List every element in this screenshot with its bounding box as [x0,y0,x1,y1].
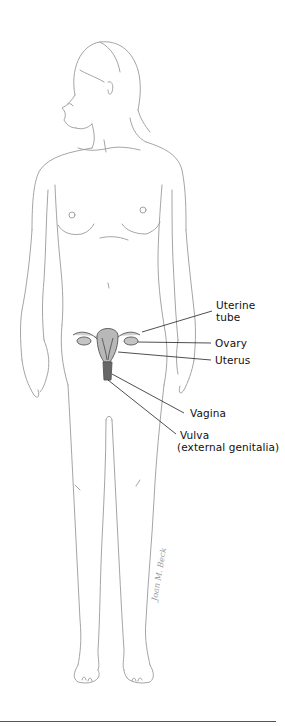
label-ovary: Ovary [215,337,247,349]
head [62,42,150,132]
label-uterus: Uterus [215,354,250,366]
legs [68,385,164,683]
left-ovary [77,337,91,345]
bottom-divider [0,721,276,722]
right-ovary [124,337,138,345]
vagina [103,362,112,380]
label-uterine-tube: Uterine tube [216,299,255,323]
label-vagina: Vagina [190,407,226,419]
uterus [97,329,118,363]
reproductive-organs [73,329,140,381]
label-vulva: Vulva (external genitalia) [180,429,279,453]
